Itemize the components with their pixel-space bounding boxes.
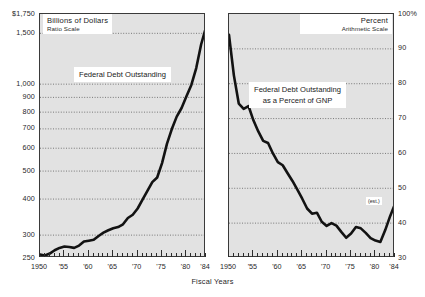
chart-panel-right: 100%90807060504030 1950'55'60'65'70'75'8… <box>212 0 425 297</box>
x-axis-tick <box>171 253 172 258</box>
y-axis-tick-label: 50 <box>398 183 425 192</box>
series-debt-percent-gnp <box>229 14 394 257</box>
x-axis-tick <box>340 253 341 258</box>
y-axis-tick-label: 1,500 <box>0 28 35 37</box>
x-axis-tick <box>98 253 99 258</box>
x-axis-tick <box>311 253 312 258</box>
x-axis-tick <box>355 253 356 258</box>
estimate-annotation: (est.) <box>366 197 382 205</box>
estimate-annotation-text: (est.) <box>368 198 380 204</box>
x-axis-tick <box>137 250 138 257</box>
x-axis-tick <box>151 253 152 258</box>
x-axis-tick <box>181 253 182 258</box>
x-axis-tick <box>176 253 177 258</box>
x-axis-tick <box>282 253 283 258</box>
x-axis-tick <box>190 253 191 258</box>
x-axis-tick <box>374 250 375 257</box>
series-label-right: Federal Debt Outstanding as a Percent of… <box>249 82 346 108</box>
x-axis-tick <box>39 250 40 257</box>
y-axis-tick-label: 70 <box>398 113 425 122</box>
x-axis-tick <box>117 253 118 258</box>
x-axis-tick <box>272 253 273 258</box>
x-axis-tick <box>93 253 94 258</box>
x-axis-tick <box>107 253 108 258</box>
header-left-line1: Billions of Dollars <box>47 16 108 25</box>
x-axis-tick <box>365 253 366 258</box>
x-axis-tick <box>200 253 201 258</box>
data-line <box>40 27 205 255</box>
x-axis-tick <box>316 253 317 258</box>
x-axis-tick <box>394 253 395 258</box>
x-axis-tick <box>306 253 307 258</box>
data-line <box>229 35 394 242</box>
x-axis-tick <box>228 250 229 257</box>
x-axis-tick <box>296 253 297 258</box>
x-axis-tick <box>291 253 292 258</box>
x-axis-tick <box>243 253 244 258</box>
x-axis-tick <box>195 253 196 258</box>
y-axis-tick-label: $1,750 <box>0 9 35 18</box>
header-box-right: Percent Arithmetic Scale <box>300 14 392 34</box>
x-axis-tick <box>166 253 167 258</box>
header-left-line2: Ratio Scale <box>47 25 108 32</box>
y-axis-tick-label: 400 <box>0 194 35 203</box>
x-axis-tick <box>132 253 133 258</box>
plot-area-right <box>228 13 394 257</box>
x-axis-tick-label: '84 <box>380 262 408 271</box>
x-axis-tick <box>122 253 123 258</box>
x-axis-tick <box>205 253 206 258</box>
y-axis-tick-label: 60 <box>398 148 425 157</box>
y-axis-tick-label: 300 <box>0 230 35 239</box>
x-axis-tick <box>262 253 263 258</box>
x-axis-tick <box>59 253 60 258</box>
x-axis-tick <box>326 250 327 257</box>
x-axis-tick <box>248 253 249 258</box>
x-axis-tick <box>238 253 239 258</box>
x-axis-tick <box>73 253 74 258</box>
x-axis-tick <box>185 250 186 257</box>
x-axis-tick <box>161 250 162 257</box>
x-axis-tick <box>257 253 258 258</box>
x-axis-tick <box>301 250 302 257</box>
x-axis-tick <box>252 250 253 257</box>
y-axis-tick-label: 700 <box>0 123 35 132</box>
y-axis-tick-label: 800 <box>0 107 35 116</box>
x-axis-tick <box>88 250 89 257</box>
y-axis-tick-label: 40 <box>398 218 425 227</box>
header-right-line2: Arithmetic Scale <box>304 25 388 32</box>
x-axis-tick <box>78 253 79 258</box>
x-axis-tick <box>360 253 361 258</box>
x-axis-tick <box>49 253 50 258</box>
x-axis-tick <box>379 253 380 258</box>
x-axis-tick <box>102 253 103 258</box>
x-axis-tick <box>287 253 288 258</box>
x-axis-tick <box>384 253 385 258</box>
y-axis-tick-label: 30 <box>398 253 425 262</box>
x-axis-tick <box>112 250 113 257</box>
y-axis-tick-label: 500 <box>0 166 35 175</box>
x-axis-tick <box>277 250 278 257</box>
x-axis-tick <box>389 253 390 258</box>
x-axis-tick <box>331 253 332 258</box>
x-axis-tick <box>142 253 143 258</box>
series-label-left: Federal Debt Outstanding <box>74 67 171 82</box>
x-axis-tick <box>127 253 128 258</box>
x-axis-tick <box>267 253 268 258</box>
x-axis-tick <box>345 253 346 258</box>
x-axis-tick <box>321 253 322 258</box>
y-axis-tick-label: 80 <box>398 78 425 87</box>
x-axis-tick <box>83 253 84 258</box>
x-axis-tick <box>156 253 157 258</box>
y-axis-tick-label: 900 <box>0 92 35 101</box>
header-box-left: Billions of Dollars Ratio Scale <box>43 14 112 34</box>
y-axis-tick-label: 250 <box>0 253 35 262</box>
figure-federal-debt: $1,7501,5001,000900800700600500400300250… <box>0 0 425 297</box>
x-axis-tick <box>68 253 69 258</box>
plot-area-left <box>39 13 205 257</box>
y-axis-tick-label: 90 <box>398 43 425 52</box>
y-axis-tick-label: 1,000 <box>0 79 35 88</box>
x-axis-tick <box>63 250 64 257</box>
x-axis-tick <box>233 253 234 258</box>
x-axis-tick <box>350 250 351 257</box>
x-axis-tick <box>335 253 336 258</box>
